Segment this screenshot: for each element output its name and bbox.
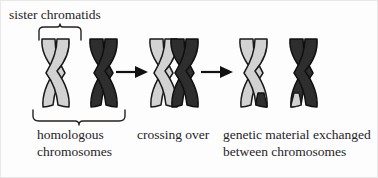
recombinant-chromosome-dark [290, 39, 317, 107]
label-homologous-chromosomes: homologous chromosomes [37, 127, 112, 161]
stage-2-crossing-over [147, 37, 205, 109]
label-crossing-over: crossing over [137, 127, 209, 143]
label-genetic-material-exchanged: genetic material exchanged between chrom… [223, 127, 371, 161]
paternal-chromosome [171, 39, 198, 107]
label-genetic-exchange-line1: genetic material exchanged [223, 127, 371, 144]
recombinant-chromosome-light [240, 39, 267, 107]
label-homologous-line1: homologous [37, 127, 112, 144]
crossing-over-diagram: sister chromatids homologous chromosomes… [0, 0, 378, 178]
stage-3-recombinant-chromosomes [233, 37, 325, 109]
maternal-chromosome [42, 39, 69, 107]
arrow-stage1-to-stage2 [115, 64, 149, 80]
arrow-stage2-to-stage3 [200, 64, 234, 80]
brace-homologous-chromosomes [31, 109, 131, 127]
label-homologous-line2: chromosomes [37, 144, 112, 161]
label-sister-chromatids: sister chromatids [9, 7, 101, 23]
label-genetic-exchange-line2: between chromosomes [223, 144, 371, 161]
paternal-chromosome [90, 39, 117, 107]
stage-1-homologous-chromosomes [35, 37, 125, 109]
